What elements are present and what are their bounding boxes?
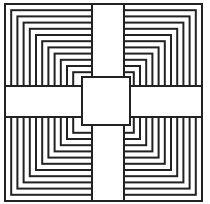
nested-squares-figure bbox=[0, 0, 210, 204]
center-square bbox=[82, 77, 130, 125]
